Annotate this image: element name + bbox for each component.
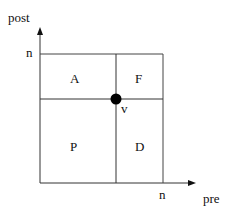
y-max-label: n [26, 46, 33, 59]
y-axis-label: post [8, 11, 30, 24]
region-f: F [135, 72, 142, 85]
x-axis-arrow-icon [188, 180, 196, 186]
point-v-label: v [121, 102, 128, 115]
diagram-canvas [0, 0, 232, 217]
point-v [111, 94, 122, 105]
x-axis-label: pre [203, 192, 220, 205]
region-a: A [70, 72, 79, 85]
x-max-label: n [159, 188, 166, 201]
y-axis-arrow-icon [37, 27, 43, 35]
region-d: D [135, 140, 144, 153]
region-p: P [70, 140, 77, 153]
